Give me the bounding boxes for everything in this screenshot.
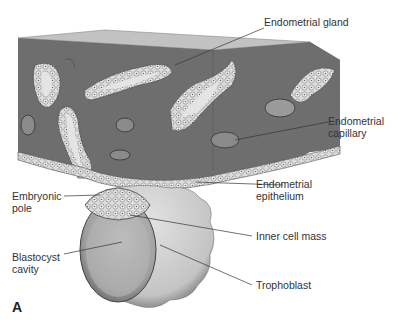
panel-letter: A (12, 299, 22, 315)
label-endometrial-epithelium-line1: Endometrial (256, 178, 312, 190)
label-endometrial-capillary-line2: capillary (328, 127, 367, 139)
label-trophoblast: Trophoblast (256, 279, 311, 291)
label-embryonic-pole-line2: pole (12, 202, 32, 214)
label-endometrial-gland: Endometrial gland (264, 16, 349, 28)
diagram-illustration (0, 0, 403, 328)
implantation-diagram: Endometrial gland Endometrial capillary … (0, 0, 403, 328)
label-embryonic-pole-line1: Embryonic (12, 190, 62, 202)
label-endometrial-capillary-line1: Endometrial (328, 115, 384, 127)
label-inner-cell-mass: Inner cell mass (256, 230, 327, 242)
label-blastocyst-cavity-line1: Blastocyst (12, 251, 60, 263)
label-endometrial-epithelium-line2: epithelium (256, 190, 304, 202)
label-blastocyst-cavity-line2: cavity (12, 263, 39, 275)
